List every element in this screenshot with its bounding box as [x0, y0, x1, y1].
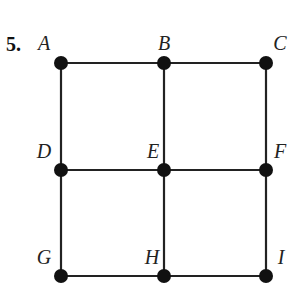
vertex-label-b: B: [158, 32, 170, 54]
vertex-label-f: F: [273, 140, 287, 162]
vertex-i: [259, 269, 273, 283]
vertex-e: [157, 163, 171, 177]
vertex-c: [259, 56, 273, 70]
vertex-g: [54, 269, 68, 283]
vertex-a: [54, 56, 68, 70]
vertex-label-e: E: [146, 140, 159, 162]
vertex-f: [259, 163, 273, 177]
problem-number: 5.: [6, 33, 21, 55]
vertex-label-i: I: [277, 246, 286, 268]
vertex-label-d: D: [36, 140, 52, 162]
vertex-label-a: A: [36, 32, 51, 54]
vertex-label-h: H: [144, 246, 161, 268]
vertex-b: [157, 56, 171, 70]
vertex-d: [54, 163, 68, 177]
grid-graph-diagram: 5. ABCDEFGHI: [0, 0, 303, 301]
vertex-label-c: C: [273, 32, 287, 54]
vertex-label-g: G: [37, 246, 52, 268]
vertex-h: [157, 269, 171, 283]
